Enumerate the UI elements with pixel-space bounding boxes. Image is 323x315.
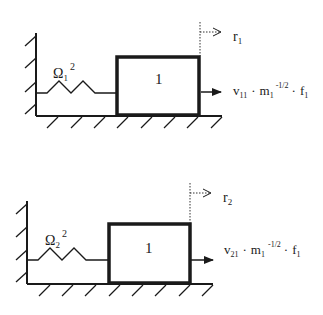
mass-label-2: 1	[145, 240, 153, 256]
mass-label-1: 1	[155, 71, 163, 87]
diagram-canvas: Ω12 1 r1 v11·m1-1/2·f1 Ω22	[0, 0, 323, 315]
force-label-1: v11·m1-1/2·f1	[233, 81, 308, 100]
spring-constant-label-2: Ω22	[45, 228, 67, 250]
mass-spring-system-1: Ω12 1 r1 v11·m1-1/2·f1	[25, 22, 308, 128]
fixed-wall-2	[16, 201, 27, 284]
displacement-label-1: r1	[233, 29, 242, 46]
fixed-wall-1	[25, 33, 36, 116]
spring-2	[27, 248, 108, 260]
spring-1	[36, 81, 116, 93]
spring-constant-label-1: Ω12	[53, 61, 75, 83]
mass-spring-system-2: Ω22 1 r2 v21·m1-1/2·f1	[16, 183, 301, 296]
force-label-2: v21·m1-1/2·f1	[224, 240, 301, 259]
ground-2	[27, 284, 213, 296]
displacement-label-2: r2	[223, 190, 232, 207]
ground-1	[36, 116, 222, 128]
